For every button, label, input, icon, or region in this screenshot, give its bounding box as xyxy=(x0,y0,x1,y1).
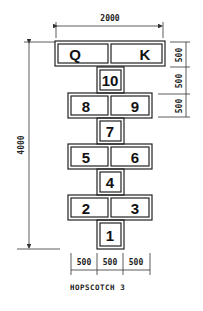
svg-text:500: 500 xyxy=(129,258,144,267)
svg-text:500: 500 xyxy=(175,74,184,89)
svg-text:500: 500 xyxy=(103,258,118,267)
square-k: K xyxy=(140,46,151,63)
height-label: 4000 xyxy=(17,135,26,154)
square-q: Q xyxy=(69,46,81,63)
square-2: 2 xyxy=(82,200,90,217)
left-dimension: 4000 xyxy=(17,42,60,249)
square-9: 9 xyxy=(131,98,139,115)
square-8: 8 xyxy=(82,98,90,115)
square-10: 10 xyxy=(102,72,119,89)
square-7: 7 xyxy=(106,123,114,140)
square-3: 3 xyxy=(131,200,139,217)
svg-text:500: 500 xyxy=(175,99,184,114)
square-4: 4 xyxy=(106,174,115,191)
diagram-caption: HOPSCOTCH 3 xyxy=(70,283,125,292)
top-dimension: 2000 xyxy=(56,14,163,38)
hopscotch-diagram: 2000 4000 500 500 500 xyxy=(0,0,203,311)
square-5: 5 xyxy=(82,149,90,166)
square-6: 6 xyxy=(131,149,139,166)
right-dimensions: 500 500 500 xyxy=(158,42,190,117)
width-label: 2000 xyxy=(100,14,119,23)
svg-text:500: 500 xyxy=(77,258,92,267)
svg-text:500: 500 xyxy=(175,48,184,63)
square-1: 1 xyxy=(106,227,114,244)
bottom-dimensions: 500 500 500 xyxy=(71,253,150,275)
